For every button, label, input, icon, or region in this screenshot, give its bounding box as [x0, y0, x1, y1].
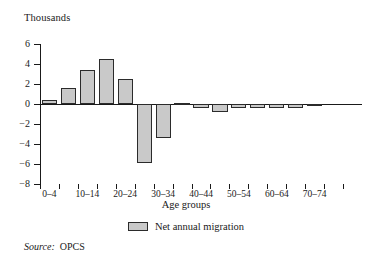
bar-60-64: [269, 104, 284, 108]
source-note: Source:OPCS: [24, 241, 85, 252]
legend-swatch-net-annual-migration: [128, 222, 148, 231]
y-tick-label-0: 0: [0, 99, 30, 109]
bar-55-59: [250, 104, 265, 108]
bar-70-74: [307, 104, 322, 106]
bar-0-4: [42, 100, 57, 104]
y-tick-label-6: 6: [0, 39, 30, 49]
bar-20-24: [118, 79, 133, 104]
x-tick-16: [343, 184, 344, 189]
y-tick-label-neg8: −8: [0, 179, 30, 189]
y-axis-unit-label: Thousands: [24, 12, 70, 23]
legend-label-net-annual-migration: Net annual migration: [155, 221, 244, 232]
bar-15-19: [99, 59, 114, 104]
chart-legend: Net annual migration: [0, 221, 372, 232]
x-tick-1: [59, 184, 60, 189]
bar-45-49: [212, 104, 227, 112]
bar-30-34: [156, 104, 171, 138]
bar-35-39: [174, 103, 189, 105]
y-tick-label-2: 2: [0, 79, 30, 89]
bar-10-14: [80, 70, 95, 104]
source-label: Source:: [24, 241, 55, 252]
bar-50-54: [231, 104, 246, 108]
bar-65-69: [288, 104, 303, 108]
y-tick-label-4: 4: [0, 59, 30, 69]
bars-layer: [40, 44, 362, 184]
x-axis-title: Age groups: [0, 199, 372, 210]
migration-bar-chart: Thousands 6420−2−4−6−8 0–410–1420–2430–3…: [0, 0, 372, 264]
bar-40-44: [193, 104, 208, 108]
source-value: OPCS: [60, 241, 85, 252]
bar-5-9: [61, 88, 76, 104]
y-tick-label-neg6: −6: [0, 159, 30, 169]
y-tick-label-neg4: −4: [0, 139, 30, 149]
bar-25-29: [137, 104, 152, 163]
x-tick-0: [40, 184, 41, 189]
y-tick-label-neg2: −2: [0, 119, 30, 129]
